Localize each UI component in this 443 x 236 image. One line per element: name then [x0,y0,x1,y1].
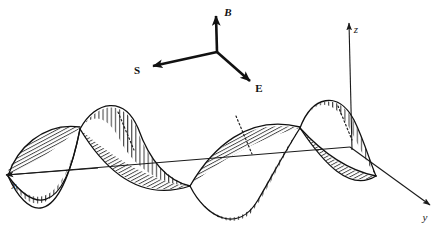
em-wave-figure: Electromagnetic wave propagation diagram [0,0,443,236]
b-vector-label: B [223,6,231,18]
e-vector-label: E [255,82,262,94]
em-wave-diagram: Electromagnetic wave propagation diagram [0,0,443,236]
s-vector-label: S [134,64,140,76]
e-vector-arrow [217,52,250,81]
s-vector-arrow [153,52,217,66]
vector-triad: B S E [134,6,263,94]
propagation-axis [6,147,350,175]
z-axis-label: z [353,23,359,35]
b-vector-arrow [216,16,217,52]
x-axis-label: x [11,179,17,191]
z-axis-arrow [349,23,352,150]
y-axis-label: y [422,211,428,223]
wave-sheets [6,100,376,220]
